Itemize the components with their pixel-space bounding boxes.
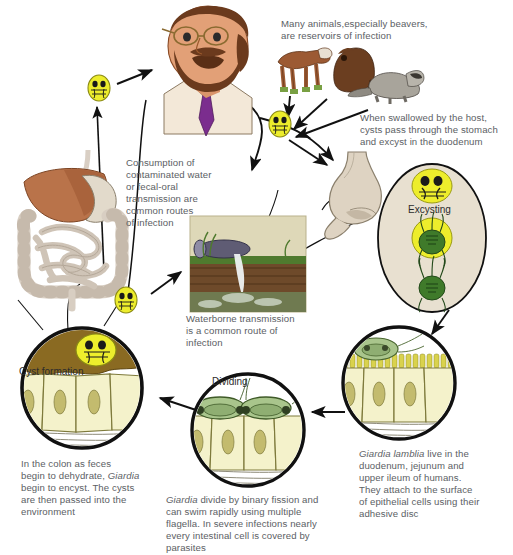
caption-consumption-routes: Consumption ofcontaminated wateror fecal… — [126, 157, 212, 230]
excysting-oval-illustration — [376, 162, 488, 314]
cyst-icon-from-gut — [113, 286, 139, 314]
life-cycle-diagram: Many animals,especially beavers,are rese… — [0, 0, 513, 555]
human-host-illustration — [140, 2, 272, 137]
cow-icon — [278, 48, 332, 94]
waterborne-illustration — [190, 216, 306, 312]
caption-animal-reservoirs: Many animals,especially beavers,are rese… — [281, 18, 428, 42]
cyst-icon-from-animals — [267, 110, 293, 138]
cyst-formation-circle — [18, 324, 146, 452]
label-cyst-formation: Cyst formation — [19, 366, 83, 377]
cyst-in-feces-icon — [76, 334, 116, 366]
duodenum-epithelium-circle — [340, 324, 458, 442]
animal-reservoirs-illustration — [272, 44, 428, 106]
caption-waterborne: Waterborne transmissionis a common route… — [186, 313, 295, 349]
cyst-icon-to-host — [86, 74, 112, 102]
caption-binary-fission: Giardia divide by binary fission andcan … — [166, 494, 318, 554]
caption-giardia-habitat: Giardia lamblia live in theduodenum, jej… — [359, 448, 479, 521]
label-dividing: Dividing — [212, 376, 248, 387]
caption-swallowed-by-host: When swallowed by the host,cysts pass th… — [360, 112, 498, 148]
dividing-epithelium-circle — [188, 370, 308, 490]
caption-colon-encystation: In the colon as fecesbegin to dehydrate,… — [21, 458, 139, 518]
label-excysting: Excysting — [408, 204, 451, 215]
cyst-stage-icon — [412, 169, 452, 203]
